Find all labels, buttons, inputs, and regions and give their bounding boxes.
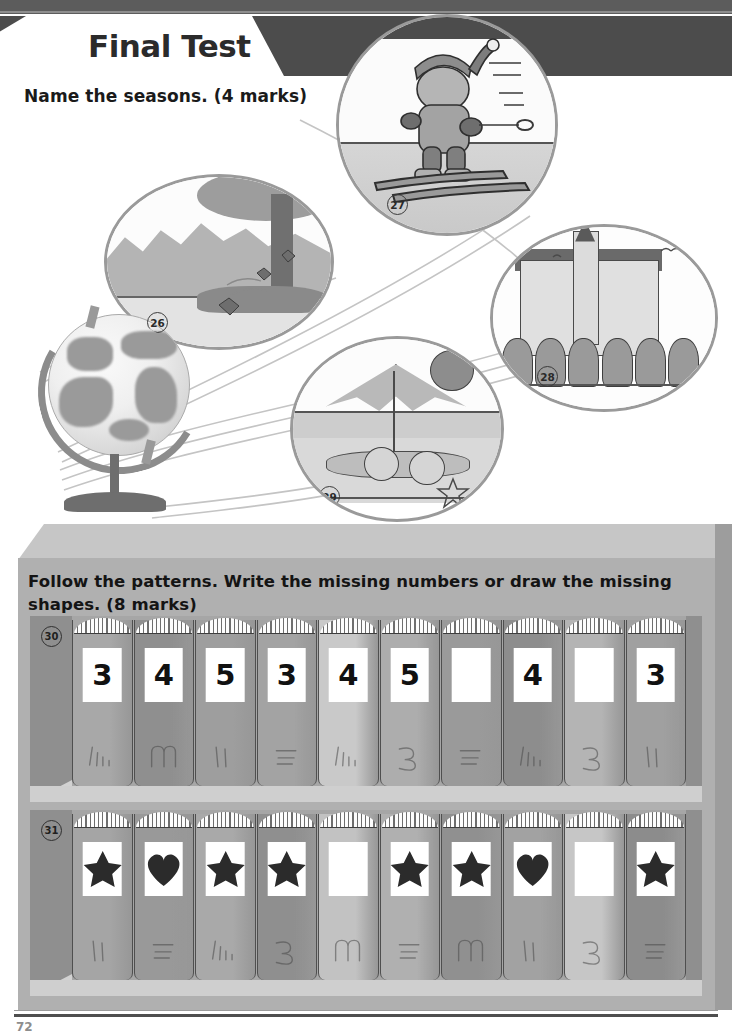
book-spine[interactable] xyxy=(134,814,195,980)
season-number-badge-27: 27 xyxy=(387,194,408,215)
book-spine[interactable] xyxy=(72,814,133,980)
book-shape-label[interactable] xyxy=(83,842,122,896)
book-page-edges xyxy=(566,618,623,634)
book-number-label[interactable]: 3 xyxy=(267,648,306,702)
book-page-edges xyxy=(382,812,439,828)
seasons-illustration-stage: 26 xyxy=(0,0,732,556)
star-icon xyxy=(636,850,676,888)
book-spine-scribble xyxy=(451,936,492,966)
book-label-text: 4 xyxy=(338,661,358,690)
book-page-edges xyxy=(197,812,254,828)
book-spine[interactable] xyxy=(441,620,502,786)
book-shape-label[interactable] xyxy=(452,842,491,896)
globe-illustration xyxy=(36,308,202,538)
star-icon xyxy=(267,850,307,888)
spring-scene xyxy=(493,227,715,409)
patterns-question-prompt: Follow the patterns. Write the missing n… xyxy=(28,570,696,617)
book-spine-scribble xyxy=(389,936,430,966)
season-number-badge-29: 29 xyxy=(319,486,340,507)
book-page-edges xyxy=(320,618,377,634)
book-spine[interactable] xyxy=(195,814,256,980)
book-page-edges xyxy=(443,618,500,634)
book-spine[interactable]: 3 xyxy=(626,620,687,786)
book-spine[interactable] xyxy=(626,814,687,980)
book-spine[interactable]: 4 xyxy=(318,620,379,786)
book-spine[interactable]: 4 xyxy=(134,620,195,786)
book-spine-scribble xyxy=(635,742,676,772)
book-page-edges xyxy=(505,618,562,634)
season-circle-28-spring[interactable]: 28 xyxy=(490,224,718,412)
book-shape-label[interactable] xyxy=(513,842,552,896)
book-blank-answer-box[interactable] xyxy=(452,648,491,702)
shelf-right-panel xyxy=(686,616,702,802)
season-number-badge-28: 28 xyxy=(537,366,558,387)
book-page-edges xyxy=(628,812,685,828)
book-spine[interactable] xyxy=(564,814,625,980)
globe-meridian-ring xyxy=(21,293,220,492)
bookshelf-row-31: 31 xyxy=(30,810,702,996)
book-spine-scribble xyxy=(635,936,676,966)
book-page-edges xyxy=(136,618,193,634)
book-spine-scribble xyxy=(82,936,123,966)
book-number-label[interactable]: 5 xyxy=(390,648,429,702)
book-number-label[interactable]: 4 xyxy=(144,648,183,702)
book-page-edges xyxy=(628,618,685,634)
book-label-shape xyxy=(144,851,184,887)
season-circle-29-summer[interactable]: 29 xyxy=(290,336,504,522)
book-spine[interactable]: 3 xyxy=(257,620,318,786)
globe-base xyxy=(64,492,166,512)
book-page-edges xyxy=(74,812,131,828)
book-label-shape xyxy=(390,850,430,888)
book-number-label[interactable]: 3 xyxy=(636,648,675,702)
book-blank-answer-box[interactable] xyxy=(575,648,614,702)
book-label-shape xyxy=(267,850,307,888)
book-shape-label[interactable] xyxy=(636,842,675,896)
book-spine-scribble xyxy=(143,936,184,966)
book-spine[interactable]: 5 xyxy=(380,620,441,786)
bookshelf-top-face xyxy=(0,524,732,560)
book-shape-label[interactable] xyxy=(144,842,183,896)
row-number-badge-31: 31 xyxy=(41,820,62,841)
book-spine[interactable] xyxy=(380,814,441,980)
star-icon xyxy=(82,850,122,888)
book-label-shape xyxy=(513,851,553,887)
book-label-text: 3 xyxy=(277,661,297,690)
book-spine[interactable]: 4 xyxy=(503,620,564,786)
bookshelf-row-30: 30 34534543 xyxy=(30,616,702,802)
book-label-text: 4 xyxy=(523,661,543,690)
book-spine-scribble xyxy=(512,742,553,772)
season-circle-27-winter[interactable]: 27 xyxy=(336,14,558,236)
book-page-edges xyxy=(443,812,500,828)
footer-rule xyxy=(14,1014,718,1017)
book-spine[interactable] xyxy=(318,814,379,980)
book-number-label[interactable]: 5 xyxy=(206,648,245,702)
book-page-edges xyxy=(382,618,439,634)
star-icon xyxy=(451,850,491,888)
book-label-text: 5 xyxy=(215,661,235,690)
book-shape-label[interactable] xyxy=(267,842,306,896)
book-shape-label[interactable] xyxy=(390,842,429,896)
book-spine-scribble xyxy=(82,742,123,772)
book-spine-scribble xyxy=(205,742,246,772)
book-spine[interactable]: 5 xyxy=(195,620,256,786)
book-shape-label[interactable] xyxy=(206,842,245,896)
book-spine[interactable] xyxy=(441,814,502,980)
book-blank-answer-box[interactable] xyxy=(575,842,614,896)
book-label-text: 3 xyxy=(646,661,666,690)
bookshelf-panel: Follow the patterns. Write the missing n… xyxy=(0,524,732,1010)
footer-rule-thin xyxy=(14,1010,718,1011)
book-blank-answer-box[interactable] xyxy=(329,842,368,896)
winter-scene xyxy=(339,17,555,233)
book-number-label[interactable]: 3 xyxy=(83,648,122,702)
book-spine[interactable] xyxy=(564,620,625,786)
book-page-edges xyxy=(74,618,131,634)
book-spine[interactable] xyxy=(257,814,318,980)
star-icon xyxy=(390,850,430,888)
book-number-label[interactable]: 4 xyxy=(513,648,552,702)
book-list-row-31 xyxy=(72,814,686,990)
book-page-edges xyxy=(197,618,254,634)
book-spine[interactable]: 3 xyxy=(72,620,133,786)
book-number-label[interactable]: 4 xyxy=(329,648,368,702)
shelf-floor-30 xyxy=(30,786,702,802)
book-spine[interactable] xyxy=(503,814,564,980)
